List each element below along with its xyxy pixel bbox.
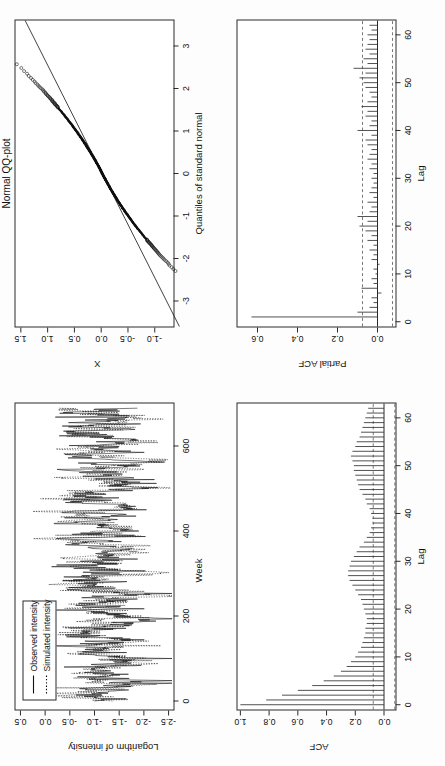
x-tick-label: 30 bbox=[402, 173, 412, 183]
y-tick-label: 0.4 bbox=[320, 716, 332, 726]
x-tick-label: -1 bbox=[180, 212, 190, 220]
qq-x-axis-label: Quantiles of standard normal bbox=[192, 112, 203, 234]
acf-bars bbox=[240, 408, 384, 704]
x-tick-label: 0 bbox=[180, 698, 190, 703]
x-tick-label: 60 bbox=[402, 30, 412, 40]
figure-rotation-wrapper: 0200400600 0.50.0-0.5-1.0-1.5-2.0-2.5 We… bbox=[0, 0, 445, 766]
x-tick-label: 10 bbox=[402, 269, 412, 279]
x-tick-label: 20 bbox=[402, 604, 412, 614]
panel-pacf: 0102030405060 0.00.20.40.6 Lag Partial A… bbox=[222, 0, 445, 383]
pacf-bars bbox=[251, 25, 381, 317]
statistical-figure: 0200400600 0.50.0-0.5-1.0-1.5-2.0-2.5 We… bbox=[0, 0, 445, 766]
y-tick-label: 0.8 bbox=[263, 716, 275, 726]
acf-y-axis-label: ACF bbox=[309, 741, 328, 752]
x-tick-label: -2 bbox=[180, 254, 190, 262]
x-tick-label: 10 bbox=[402, 652, 412, 662]
qq-point-cloud bbox=[15, 62, 177, 272]
qq-point bbox=[15, 62, 18, 65]
qq-point bbox=[25, 72, 28, 75]
panel-timeseries: 0200400600 0.50.0-0.5-1.0-1.5-2.0-2.5 We… bbox=[0, 383, 222, 766]
y-tick-label: -1.5 bbox=[111, 716, 126, 726]
y-tick-label: 0.2 bbox=[349, 716, 361, 726]
x-tick-label: 30 bbox=[402, 556, 412, 566]
x-tick-label: 1 bbox=[180, 128, 190, 133]
y-tick-label: -0.5 bbox=[120, 333, 135, 343]
acf-plot-frame bbox=[236, 402, 396, 710]
y-tick-label: 0.5 bbox=[68, 333, 80, 343]
qq-plot-title: Normal QQ-plot bbox=[0, 138, 11, 208]
qq-y-axis-label: X bbox=[94, 358, 100, 369]
x-tick-label: 200 bbox=[180, 608, 190, 623]
panel-qq: -3-2-10123 1.51.00.50.0-0.5-1.0 Quantile… bbox=[0, 0, 222, 383]
qq-plot-frame bbox=[14, 19, 174, 327]
y-tick-label: 0.2 bbox=[331, 333, 343, 343]
y-tick-label: 1.0 bbox=[234, 716, 246, 726]
qq-point bbox=[22, 69, 25, 72]
y-tick-label: 0.0 bbox=[39, 716, 51, 726]
pacf-y-axis-label: Partial ACF bbox=[298, 358, 346, 369]
timeseries-x-axis-label: Week bbox=[192, 558, 203, 582]
y-tick-label: -2.5 bbox=[161, 716, 176, 726]
pacf-x-axis-label: Lag bbox=[414, 165, 425, 181]
y-tick-label: 0.6 bbox=[291, 716, 303, 726]
x-tick-label: 0 bbox=[402, 319, 412, 324]
legend-item-observed: Observed intensity bbox=[28, 600, 38, 671]
y-tick-label: -2.0 bbox=[136, 716, 151, 726]
x-tick-label: 20 bbox=[402, 221, 412, 231]
x-tick-label: 0 bbox=[180, 171, 190, 176]
y-tick-label: -0.5 bbox=[62, 716, 77, 726]
x-tick-label: 40 bbox=[402, 125, 412, 135]
acf-x-axis-label: Lag bbox=[414, 548, 425, 564]
y-tick-label: 0.0 bbox=[377, 716, 389, 726]
y-tick-label: 1.5 bbox=[14, 333, 26, 343]
x-tick-label: 400 bbox=[180, 523, 190, 538]
y-tick-label: 0.0 bbox=[371, 333, 383, 343]
pacf-plot-frame bbox=[236, 19, 396, 327]
pacf-canvas bbox=[237, 20, 395, 326]
x-tick-label: 600 bbox=[180, 438, 190, 453]
y-tick-label: -1.0 bbox=[87, 716, 102, 726]
y-tick-label: 0.4 bbox=[291, 333, 303, 343]
y-tick-label: -1.0 bbox=[147, 333, 162, 343]
panel-acf: 0102030405060 0.00.20.40.60.81.0 Lag ACF bbox=[222, 383, 445, 766]
x-tick-label: 50 bbox=[402, 460, 412, 470]
y-tick-label: 1.0 bbox=[41, 333, 53, 343]
x-tick-label: 60 bbox=[402, 413, 412, 423]
legend-item-simulated: Simulated intensity bbox=[41, 599, 51, 671]
x-tick-label: 50 bbox=[402, 77, 412, 87]
qq-canvas bbox=[15, 20, 173, 326]
y-tick-label: 0.0 bbox=[95, 333, 107, 343]
qq-point bbox=[19, 66, 22, 69]
x-tick-label: 3 bbox=[180, 43, 190, 48]
x-tick-label: -3 bbox=[180, 297, 190, 305]
acf-canvas bbox=[237, 403, 395, 709]
y-tick-label: 0.5 bbox=[14, 716, 26, 726]
x-tick-label: 0 bbox=[402, 702, 412, 707]
x-tick-label: 2 bbox=[180, 86, 190, 91]
y-tick-label: 0.6 bbox=[251, 333, 263, 343]
x-tick-label: 40 bbox=[402, 508, 412, 518]
timeseries-y-axis-label: Logarithm of intensity bbox=[68, 741, 158, 752]
timeseries-legend: Observed intensity Simulated intensity bbox=[22, 600, 56, 700]
